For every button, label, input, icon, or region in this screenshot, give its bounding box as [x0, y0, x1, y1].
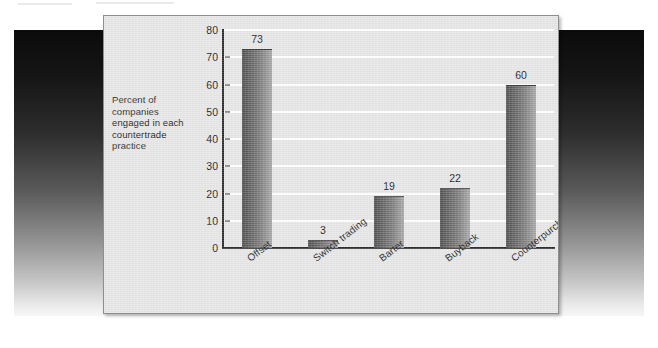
bar-offset[interactable]: [242, 49, 272, 248]
gridline: [224, 138, 554, 140]
bar-counterpurchase[interactable]: [506, 85, 536, 249]
gridline: [224, 165, 554, 167]
y-axis-tick-mark: [225, 84, 230, 86]
scan-artifact-mark: [18, 3, 72, 5]
y-axis-tick-label: 20: [188, 188, 218, 200]
bar-value-label: 60: [515, 69, 527, 81]
page-canvas: Percent of companies engaged in each cou…: [0, 0, 658, 348]
y-axis-tick-label: 70: [188, 51, 218, 63]
chart-panel: Percent of companies engaged in each cou…: [103, 15, 559, 314]
bar-value-label: 3: [320, 224, 326, 236]
gridline: [224, 193, 554, 195]
y-axis-tick-mark: [225, 56, 230, 58]
y-axis-tick-label: 60: [188, 79, 218, 91]
y-axis-tick-mark: [225, 165, 230, 167]
y-axis-tick-label: 50: [188, 106, 218, 118]
y-axis-tick-mark: [225, 193, 230, 195]
y-axis-tick-label: 40: [188, 133, 218, 145]
y-axis-tick-label: 10: [188, 215, 218, 227]
gridline: [224, 84, 554, 86]
bar-value-label: 19: [383, 180, 395, 192]
gridline: [224, 56, 554, 58]
gridline: [224, 111, 554, 113]
plot-area: 733192260: [224, 30, 554, 248]
gridline: [224, 29, 554, 31]
y-axis-tick-mark: [225, 138, 230, 140]
bar-value-label: 73: [251, 33, 263, 45]
y-axis-tick-label: 0: [188, 242, 218, 254]
y-axis-tick-mark: [225, 111, 230, 113]
scan-artifact-mark: [96, 2, 174, 4]
y-axis-tick-mark: [225, 220, 230, 222]
y-axis-tick-labels: 01020304050607080: [184, 30, 218, 248]
bar-value-label: 22: [449, 172, 461, 184]
y-axis-tick-label: 80: [188, 24, 218, 36]
y-axis-tick-label: 30: [188, 160, 218, 172]
